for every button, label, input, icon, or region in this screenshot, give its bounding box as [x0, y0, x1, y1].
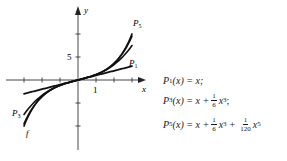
x-tick-label: 1 — [93, 85, 98, 95]
label-p5: P5 — [132, 18, 142, 29]
label-f: f — [26, 128, 30, 138]
formula-p3: P3(x) = x + 16 x3; — [163, 92, 229, 109]
y-tick-label: 5 — [67, 52, 72, 62]
fraction-one-sixth: 16 — [211, 92, 217, 109]
label-p3: P3 — [11, 108, 21, 119]
x-axis-arrow-icon — [138, 77, 146, 83]
exp: 3 — [223, 121, 227, 128]
formula-p3-body: (x) = x + — [173, 96, 210, 106]
formula-p1: P1(x) = x; — [163, 76, 203, 86]
frac-num: 1 — [211, 116, 217, 125]
taylor-plot: x y 1 5 P5 P1 P3 f — [0, 0, 150, 161]
label-p1: P1 — [128, 58, 138, 69]
x-axis-label: x — [141, 84, 146, 94]
frac-den: 120 — [240, 125, 251, 133]
plus-sign: + — [230, 120, 236, 130]
fraction-one-120th: 1120 — [240, 116, 251, 133]
fraction-one-sixth: 16 — [211, 116, 217, 133]
formula-p1-body: (x) = x; — [173, 76, 204, 86]
formula-p5-body: (x) = x + — [173, 120, 210, 130]
frac-num: 1 — [243, 116, 249, 125]
frac-den: 6 — [212, 101, 216, 109]
exp: 5 — [257, 121, 261, 128]
frac-num: 1 — [211, 92, 217, 101]
y-axis-arrow-icon — [75, 6, 81, 15]
semicolon: ; — [227, 96, 230, 106]
y-axis-label: y — [83, 5, 88, 15]
frac-den: 6 — [212, 125, 216, 133]
formula-p5: P5(x) = x + 16 x3 + 1120 x5 — [163, 116, 261, 133]
